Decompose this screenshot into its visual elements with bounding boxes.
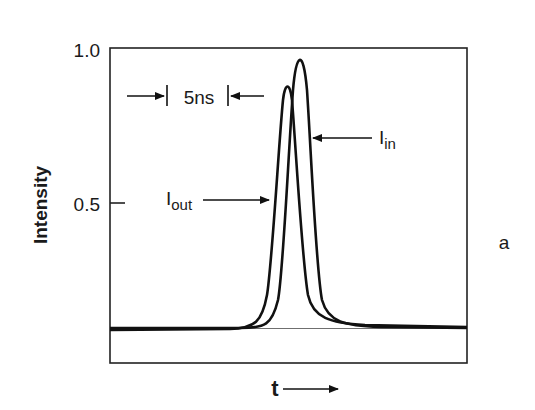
y-axis-label: Intensity bbox=[30, 166, 51, 245]
series-label-i-in: Iin bbox=[379, 127, 396, 152]
x-axis-label: t bbox=[271, 376, 279, 401]
series-i-out-line bbox=[110, 87, 467, 331]
y-tick-label-1: 1.0 bbox=[74, 40, 100, 61]
chart: 1.0 0.5 Intensity t a 5ns Iout Iin bbox=[0, 0, 535, 410]
y-tick-label-05: 0.5 bbox=[74, 194, 100, 215]
scale-annotation: 5ns bbox=[184, 87, 215, 108]
panel-label: a bbox=[499, 232, 510, 253]
series-label-i-out: Iout bbox=[166, 188, 193, 213]
series-i-in-line bbox=[110, 60, 467, 328]
